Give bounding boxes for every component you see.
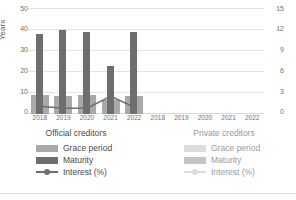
legend-item-interest[interactable]: Interest (%)	[14, 166, 148, 178]
legend-label: Grace period	[211, 143, 260, 153]
y-axis-right-tick: 6	[268, 67, 284, 74]
legend-swatch-grace-icon	[184, 145, 206, 152]
x-axis-tick-label: 2019	[171, 114, 191, 122]
legend-label: Maturity	[211, 155, 241, 165]
interest-marker-2022[interactable]	[132, 105, 137, 110]
y-axis-right-tick: 0	[268, 108, 284, 115]
legend-swatch-line-marker-icon	[36, 168, 58, 176]
panel-private-creditors	[146, 8, 264, 114]
interest-line-series	[28, 8, 146, 114]
x-axis-tick-label: 2020	[195, 114, 215, 122]
legend-swatch-maturity-icon	[184, 157, 206, 164]
y-axis-right-tick: 9	[268, 46, 284, 53]
y-axis-right-tick: 3	[268, 88, 284, 95]
legend-item-grace-period[interactable]: Grace period	[162, 142, 296, 154]
footer-divider	[0, 193, 296, 194]
legend-label: Grace period	[63, 143, 112, 153]
legend-swatch-line-marker-icon	[184, 168, 206, 176]
legend-label: Maturity	[63, 155, 93, 165]
legend-label: Interest (%)	[63, 167, 107, 177]
legend-label: Interest (%)	[211, 167, 255, 177]
interest-marker-2021[interactable]	[108, 94, 113, 99]
y-axis-left-tick: 20	[6, 67, 28, 74]
x-axis-tick-label: 2020	[77, 114, 97, 122]
legend-group-private: Private creditors Grace period Maturity …	[148, 128, 296, 192]
x-axis-tick-label: 2022	[124, 114, 144, 122]
y-axis-right-tick: 12	[268, 25, 284, 32]
interest-marker-2019[interactable]	[61, 106, 66, 111]
x-axis-tick-label: 2022	[242, 114, 262, 122]
x-axis-labels-official: 2018 2019 2020 2021 2022	[28, 114, 146, 126]
legend-title-private: Private creditors	[162, 128, 296, 139]
legend: Official creditors Grace period Maturity…	[0, 128, 296, 192]
y-axis-left-tick: 40	[6, 25, 28, 32]
legend-item-maturity[interactable]: Maturity	[162, 154, 296, 166]
y-axis-left-tick: 30	[6, 46, 28, 53]
legend-item-interest[interactable]: Interest (%)	[162, 166, 296, 178]
interest-marker-2020[interactable]	[85, 106, 90, 111]
x-axis-tick-label: 2021	[219, 114, 239, 122]
plot-area	[28, 8, 264, 114]
legend-title-official: Official creditors	[14, 128, 148, 139]
x-axis-tick-label: 2021	[101, 114, 121, 122]
legend-swatch-maturity-icon	[36, 157, 58, 164]
interest-marker-2018[interactable]	[37, 104, 42, 109]
panel-official-creditors	[28, 8, 146, 114]
x-axis-tick-label: 2018	[30, 114, 50, 122]
y-axis-left-tick: 10	[6, 88, 28, 95]
legend-group-official: Official creditors Grace period Maturity…	[0, 128, 148, 192]
legend-item-maturity[interactable]: Maturity	[14, 154, 148, 166]
legend-item-grace-period[interactable]: Grace period	[14, 142, 148, 154]
x-axis-tick-label: 2018	[148, 114, 168, 122]
y-axis-left-tick: 50	[6, 5, 28, 12]
y-axis-right-tick: 15	[268, 5, 284, 12]
x-axis-tick-label: 2019	[53, 114, 73, 122]
chart-figure: Years 50 40 30 20 10 0 Interest (%) 15 1…	[0, 0, 296, 200]
legend-swatch-grace-icon	[36, 145, 58, 152]
x-axis-labels-private: 2018 2019 2020 2021 2022	[146, 114, 264, 126]
y-axis-left-tick: 0	[6, 108, 28, 115]
